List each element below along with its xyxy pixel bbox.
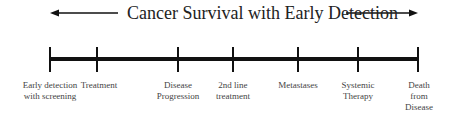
label-line: Death (405, 80, 433, 91)
label-line: 2nd line (216, 80, 250, 91)
diagram-title: Cancer Survival with Early Detection (127, 2, 343, 24)
event-label-disease-progression: Disease Progression (157, 80, 200, 102)
label-line: Progression (157, 91, 200, 102)
label-line: Metastases (278, 80, 318, 91)
label-line: Disease (157, 80, 200, 91)
label-line: Therapy (342, 91, 375, 102)
event-label-systemic-therapy: Systemic Therapy (342, 80, 375, 102)
timeline-diagram: Cancer Survival with Early Detection Ear… (0, 0, 455, 115)
label-line: Early detection (23, 80, 78, 91)
label-line: Treatment (81, 80, 118, 91)
event-label-2nd-line-treatment: 2nd line treatment (216, 80, 250, 102)
event-label-early-detection: Early detection with screening (23, 80, 78, 102)
event-label-metastases: Metastases (278, 80, 318, 91)
label-line: from (405, 91, 433, 102)
label-line: Systemic (342, 80, 375, 91)
arrow-left-icon (50, 10, 118, 17)
label-line: treatment (216, 91, 250, 102)
label-line: with screening (23, 91, 78, 102)
event-label-death-from-disease: Death from Disease (405, 80, 433, 113)
event-label-treatment: Treatment (81, 80, 118, 91)
label-line: Disease (405, 102, 433, 113)
